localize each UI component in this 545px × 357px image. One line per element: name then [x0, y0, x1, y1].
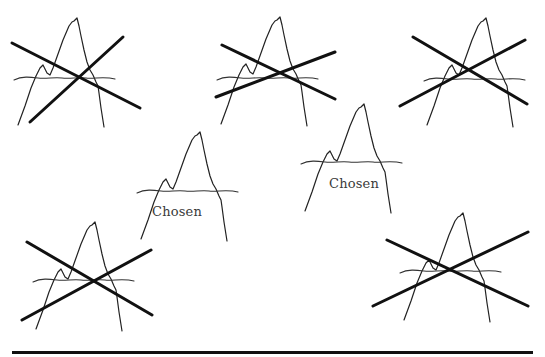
wavy-baseline — [14, 77, 115, 80]
wavy-baseline — [33, 279, 134, 282]
diagram-canvas — [0, 0, 545, 357]
peak-curve — [18, 18, 104, 127]
cross-out-line — [12, 43, 140, 108]
figure-4-chosen — [137, 132, 238, 241]
peak-curve — [141, 132, 227, 241]
figure-3-rejected — [400, 18, 527, 127]
cross-out-line — [387, 240, 528, 306]
cross-out-line — [27, 242, 152, 315]
figure-7-rejected — [373, 213, 528, 322]
chosen-label-left: Chosen — [152, 204, 202, 219]
figure-2-rejected — [216, 17, 335, 126]
cross-out-line — [400, 40, 525, 106]
wavy-baseline — [137, 190, 238, 193]
wavy-baseline — [424, 78, 525, 81]
cross-out-line — [22, 250, 151, 320]
figure-6-rejected — [22, 222, 152, 331]
cross-out-line — [30, 37, 123, 122]
figure-1-rejected — [12, 18, 140, 127]
bottom-divider-rule — [12, 351, 533, 354]
peak-curve — [36, 222, 122, 331]
figure-5-chosen — [301, 104, 402, 213]
peak-curve — [305, 104, 391, 213]
wavy-baseline — [301, 161, 402, 164]
peak-curve — [221, 17, 307, 126]
chosen-label-right: Chosen — [329, 176, 379, 191]
peak-curve — [427, 18, 513, 127]
